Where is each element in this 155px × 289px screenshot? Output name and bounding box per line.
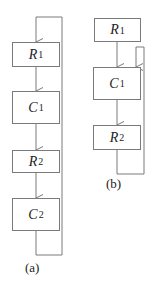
block-subscript: 1 bbox=[120, 25, 125, 36]
block-a-r1: R1 bbox=[12, 42, 60, 67]
block-label: R bbox=[110, 22, 119, 38]
block-b-r1: R1 bbox=[94, 18, 141, 42]
caption-a: (a) bbox=[25, 260, 39, 276]
block-label: R bbox=[110, 130, 119, 146]
block-a-c2: C2 bbox=[12, 198, 60, 231]
block-label: R bbox=[29, 47, 38, 63]
block-label: C bbox=[28, 100, 37, 116]
block-b-c1: C1 bbox=[93, 67, 141, 100]
block-a-r2: R2 bbox=[12, 150, 60, 173]
block-subscript: 1 bbox=[120, 78, 125, 89]
block-b-r2: R2 bbox=[93, 125, 141, 150]
block-subscript: 1 bbox=[39, 102, 44, 113]
block-subscript: 1 bbox=[38, 49, 43, 60]
block-label: C bbox=[109, 76, 118, 92]
block-subscript: 2 bbox=[38, 156, 43, 167]
caption-b: (b) bbox=[106, 176, 121, 192]
block-label: R bbox=[29, 154, 38, 170]
block-a-c1: C1 bbox=[12, 91, 60, 124]
block-label: C bbox=[28, 207, 37, 223]
block-subscript: 2 bbox=[119, 132, 124, 143]
block-subscript: 2 bbox=[39, 209, 44, 220]
